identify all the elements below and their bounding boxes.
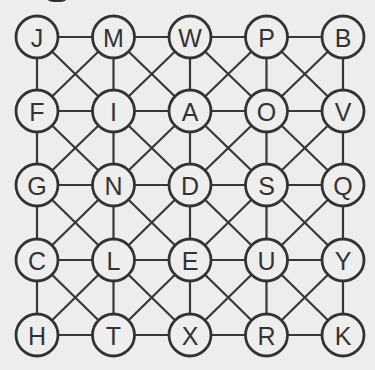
node-U: U xyxy=(246,239,288,281)
node-J: J xyxy=(16,16,58,58)
node-label: A xyxy=(182,98,199,126)
node-S: S xyxy=(246,164,288,206)
node-O: O xyxy=(246,90,288,132)
node-label: C xyxy=(28,247,46,275)
node-L: L xyxy=(93,239,135,281)
node-M: M xyxy=(93,16,135,58)
node-label: W xyxy=(178,24,202,52)
node-label: H xyxy=(28,322,46,350)
node-label: T xyxy=(106,322,121,350)
node-label: N xyxy=(104,172,122,200)
node-label: S xyxy=(258,172,275,200)
node-label: I xyxy=(110,98,117,126)
node-label: K xyxy=(335,322,352,350)
node-X: X xyxy=(169,314,211,356)
node-C: C xyxy=(16,239,58,281)
node-label: B xyxy=(335,24,352,52)
node-label: E xyxy=(182,247,199,275)
node-F: F xyxy=(16,90,58,132)
node-G: G xyxy=(16,164,58,206)
node-T: T xyxy=(93,314,135,356)
node-label: Q xyxy=(333,172,352,200)
node-label: L xyxy=(107,247,121,275)
letter-grid-diagram: JMWPBFIAOVGNDSQCLEUYHTXRK xyxy=(0,0,375,370)
cropped-fragment xyxy=(48,0,66,2)
letter-grid-svg: JMWPBFIAOVGNDSQCLEUYHTXRK xyxy=(0,0,375,370)
node-R: R xyxy=(246,314,288,356)
node-B: B xyxy=(322,16,364,58)
node-Y: Y xyxy=(322,239,364,281)
node-label: U xyxy=(257,247,275,275)
node-label: M xyxy=(103,24,124,52)
node-E: E xyxy=(169,239,211,281)
node-label: O xyxy=(257,98,276,126)
node-label: J xyxy=(31,24,44,52)
node-label: F xyxy=(29,98,44,126)
node-K: K xyxy=(322,314,364,356)
node-H: H xyxy=(16,314,58,356)
node-A: A xyxy=(169,90,211,132)
node-label: R xyxy=(257,322,275,350)
node-label: P xyxy=(258,24,275,52)
node-Q: Q xyxy=(322,164,364,206)
node-label: G xyxy=(27,172,46,200)
node-N: N xyxy=(93,164,135,206)
node-label: X xyxy=(182,322,199,350)
node-W: W xyxy=(169,16,211,58)
node-D: D xyxy=(169,164,211,206)
node-label: Y xyxy=(335,247,352,275)
node-label: V xyxy=(335,98,352,126)
node-V: V xyxy=(322,90,364,132)
node-P: P xyxy=(246,16,288,58)
node-I: I xyxy=(93,90,135,132)
node-label: D xyxy=(181,172,199,200)
